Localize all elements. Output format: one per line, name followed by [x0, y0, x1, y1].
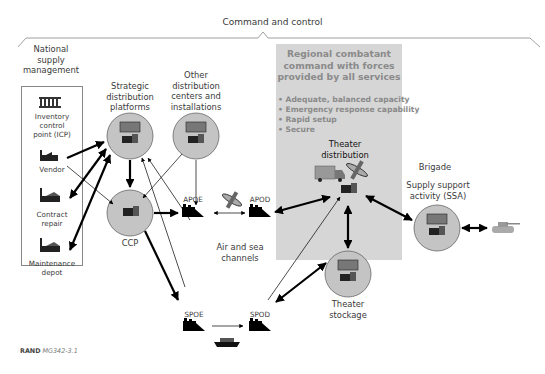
warehouse-forklift-icons: [120, 122, 447, 281]
truck-icon: [315, 166, 345, 182]
maintenance-depot-label: Maintenance depot: [21, 259, 83, 277]
ship-icon: [214, 338, 240, 347]
airplane-icon: [218, 187, 246, 214]
spod-label: SPOD: [245, 310, 275, 319]
spoe-label: SPOE: [179, 310, 209, 319]
government-building-icon: [39, 97, 61, 108]
vendor-label: Vendor: [21, 165, 83, 174]
brigade-label: Brigade: [410, 162, 460, 173]
icp-label: Inventory control point (ICP): [21, 112, 83, 139]
other-distribution-label: Other distribution centers and installat…: [160, 70, 232, 112]
contract-repair-label: Contract repair: [21, 210, 83, 228]
apod-label: APOD: [245, 195, 275, 204]
theater-stockage-label: Theater stockage: [313, 299, 383, 320]
air-sea-channels-label: Air and sea channels: [200, 242, 280, 263]
strategic-platforms-label: Strategic distribution platforms: [95, 81, 165, 113]
ssa-label: Supply support activity (SSA): [398, 180, 478, 201]
apoe-label: APOE: [178, 195, 208, 204]
figure-source: RAND MG342-3.1: [20, 347, 78, 355]
tank-icon: [492, 222, 520, 233]
ccp-label: CCP: [110, 238, 150, 249]
theater-distribution-label: Theater distribution: [305, 139, 385, 160]
